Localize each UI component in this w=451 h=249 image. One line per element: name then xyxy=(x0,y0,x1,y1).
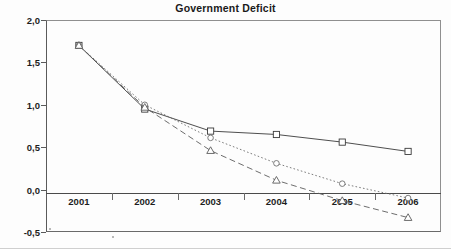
series-triangle xyxy=(75,42,412,221)
scan-speck xyxy=(49,228,51,230)
data-point-marker xyxy=(273,176,281,183)
data-point-marker xyxy=(339,139,345,145)
series-line xyxy=(79,45,408,198)
plot-area xyxy=(46,20,441,232)
chart-page: Government Deficit 2,01,51,00,50,0-0,5 2… xyxy=(0,0,451,249)
data-point-marker xyxy=(339,181,345,187)
scan-speck xyxy=(112,236,114,238)
y-axis-tick-label: 1,5 xyxy=(0,57,40,68)
data-point-marker xyxy=(274,161,280,167)
y-axis-tick-mark xyxy=(41,232,46,233)
y-axis-tick-label: 0,5 xyxy=(0,142,40,153)
y-axis-tick-label: 2,0 xyxy=(0,15,40,26)
data-point-marker xyxy=(405,195,411,201)
series-line xyxy=(79,45,408,217)
chart-title: Government Deficit xyxy=(0,2,451,14)
data-point-marker xyxy=(207,128,213,134)
data-point-marker xyxy=(208,135,214,141)
data-point-marker xyxy=(273,131,279,137)
y-axis-tick-label: -0,5 xyxy=(0,227,40,238)
y-axis-tick-label: 1,0 xyxy=(0,99,40,110)
series-square xyxy=(76,42,411,154)
series-layer xyxy=(46,20,441,232)
y-axis-tick-label: 0,0 xyxy=(0,184,40,195)
series-line xyxy=(79,45,408,151)
data-point-marker xyxy=(405,148,411,154)
data-point-marker xyxy=(207,147,215,154)
series-circle xyxy=(76,43,411,201)
